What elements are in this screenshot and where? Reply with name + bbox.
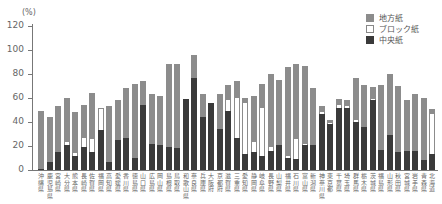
x-tick-label: 徳島県 bbox=[131, 173, 139, 193]
bar-segment-central bbox=[319, 114, 325, 170]
y-tick-label: 100 bbox=[2, 44, 24, 54]
bar-segment-block bbox=[242, 103, 248, 155]
bar-segment-local bbox=[412, 94, 418, 150]
x-tick-label: 山形県 bbox=[386, 173, 394, 193]
bar-segment-central bbox=[429, 154, 435, 170]
bar-segment-local bbox=[64, 98, 70, 142]
x-tick-label: 滋賀県 bbox=[224, 173, 232, 193]
legend-item-block: ブロック紙 bbox=[366, 23, 419, 34]
x-tick-label: 長野県 bbox=[267, 173, 275, 193]
bar-segment-local bbox=[38, 111, 44, 169]
bar-segment-local bbox=[200, 94, 206, 117]
x-tick-label: 福井県 bbox=[284, 173, 292, 193]
bar-segment-block bbox=[268, 147, 274, 151]
bar-segment-local bbox=[115, 100, 121, 140]
bar-segment-local bbox=[370, 87, 376, 99]
bar-segment-local bbox=[421, 98, 427, 160]
x-tick-label: 神奈川県 bbox=[318, 173, 326, 199]
bar-segment-local bbox=[344, 100, 350, 106]
bar-segment-local bbox=[361, 85, 367, 127]
bar-segment-block bbox=[225, 100, 231, 111]
bar-segment-local bbox=[123, 88, 129, 137]
y-tick-label: 20 bbox=[2, 140, 24, 150]
bar-segment-local bbox=[395, 86, 401, 152]
y-axis-unit-label: (%) bbox=[22, 8, 36, 17]
legend-label-block: ブロック紙 bbox=[379, 23, 419, 34]
bar-segment-local bbox=[157, 96, 163, 145]
x-tick-label: 千葉県 bbox=[335, 173, 343, 193]
bar-segment-block bbox=[64, 142, 70, 144]
x-tick-label: 埼玉県 bbox=[343, 173, 351, 193]
bar-segment-local bbox=[302, 66, 308, 144]
bar-segment-block bbox=[259, 108, 265, 156]
x-tick-label: 京都府 bbox=[216, 173, 224, 193]
bar-segment-block bbox=[336, 105, 342, 107]
bar-segment-central bbox=[174, 148, 180, 170]
bar-segment-central bbox=[217, 129, 223, 170]
bar-segment-block bbox=[370, 99, 376, 100]
bar-segment-local bbox=[429, 109, 435, 114]
y-tick-label: 60 bbox=[2, 92, 24, 102]
x-tick-label: 岐阜県 bbox=[258, 173, 266, 193]
bar-segment-local bbox=[319, 106, 325, 112]
bar-segment-central bbox=[251, 152, 257, 170]
y-tick-label: 80 bbox=[2, 68, 24, 78]
x-tick-label: 新潟県 bbox=[309, 173, 317, 193]
legend-swatch-local bbox=[366, 14, 374, 22]
x-tick-label: 岩手県 bbox=[411, 173, 419, 193]
bar-segment-local bbox=[251, 96, 257, 143]
bar-segment-central bbox=[106, 162, 112, 170]
bar-segment-central bbox=[344, 108, 350, 170]
x-tick-label: 愛媛県 bbox=[114, 173, 122, 193]
bar-segment-central bbox=[38, 169, 44, 170]
bar-segment-central bbox=[123, 138, 129, 170]
bar-segment-central bbox=[157, 145, 163, 170]
bar-segment-central bbox=[47, 162, 53, 170]
x-tick-label: 秋田県 bbox=[394, 173, 402, 193]
x-tick-label: 和歌山県 bbox=[182, 173, 190, 199]
x-tick-label: 熊本県 bbox=[71, 173, 79, 193]
bar-segment-local bbox=[174, 64, 180, 148]
bar-segment-local bbox=[387, 74, 393, 135]
stacked-bar-chart: (%) 020406080100120 沖縄県鹿児島県宮崎県大分県熊本県長崎県佐… bbox=[0, 0, 442, 204]
bar-segment-local bbox=[81, 105, 87, 137]
bar-segment-central bbox=[370, 100, 376, 170]
bar-segment-central bbox=[395, 152, 401, 170]
x-axis-line bbox=[32, 170, 438, 171]
x-tick-label: 大阪府 bbox=[207, 173, 215, 193]
bar-segment-local bbox=[217, 94, 223, 129]
bar-segment-block bbox=[327, 123, 333, 124]
y-tick bbox=[28, 26, 33, 27]
x-tick-label: 香川県 bbox=[122, 173, 130, 193]
bar-segment-central bbox=[412, 151, 418, 170]
bar-segment-central bbox=[81, 147, 87, 170]
bar-segment-local bbox=[166, 64, 172, 147]
bar-segment-local bbox=[336, 99, 342, 105]
legend-swatch-block bbox=[366, 25, 374, 33]
legend-item-local: 地方紙 bbox=[366, 12, 419, 23]
bar-segment-local bbox=[234, 81, 240, 98]
x-tick-label: 佐賀県 bbox=[88, 173, 96, 193]
bar-segment-central bbox=[378, 150, 384, 170]
x-tick-label: 宮城県 bbox=[403, 173, 411, 193]
bar-segment-central bbox=[353, 122, 359, 170]
bar-segment-local bbox=[149, 94, 155, 143]
bar-segment-local bbox=[89, 93, 95, 139]
x-tick-label: 群馬県 bbox=[352, 173, 360, 193]
bar-segment-local bbox=[191, 55, 197, 78]
bar-segment-central bbox=[89, 152, 95, 170]
y-tick-label: 0 bbox=[2, 164, 24, 174]
bar-segment-central bbox=[387, 135, 393, 170]
bar-segment-local bbox=[285, 67, 291, 156]
x-tick-label: 山梨県 bbox=[275, 173, 283, 193]
legend-swatch-central bbox=[366, 36, 374, 44]
bar-segment-block bbox=[429, 114, 435, 155]
bar-segment-block bbox=[293, 139, 299, 159]
bar-segment-central bbox=[208, 103, 214, 170]
x-tick-label: 島根県 bbox=[165, 173, 173, 193]
bar-segment-central bbox=[404, 151, 410, 170]
bar-segment-central bbox=[132, 158, 138, 170]
x-tick-label: 静岡県 bbox=[250, 173, 258, 193]
x-tick-label: 奈良県 bbox=[190, 173, 198, 193]
bar-segment-central bbox=[336, 108, 342, 170]
